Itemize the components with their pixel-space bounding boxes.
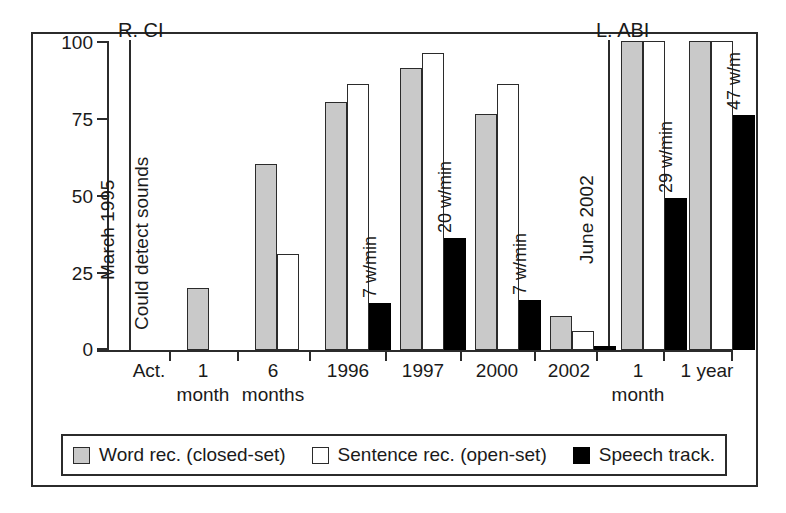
x-label-1996: 1996: [327, 359, 369, 383]
bar-group-6months: [255, 41, 299, 350]
x-label-act-line1: Act.: [133, 360, 166, 381]
figure-frame: 100 75 50 25 0 March 1995 Could dete: [31, 32, 758, 487]
x-label-1year-abi: 1 year: [681, 359, 734, 383]
bar-sentence-1996[interactable]: [347, 84, 369, 350]
legend-label-speech-track: Speech track.: [599, 444, 715, 466]
bar-note-2000: 7 w/min: [511, 233, 530, 295]
bar-word-6months[interactable]: [255, 164, 277, 350]
legend-label-sentence-rec: Sentence rec. (open-set): [338, 444, 547, 466]
x-label-6months-line2: months: [242, 383, 304, 407]
bar-word-1996[interactable]: [325, 102, 347, 350]
x-label-act: Act.: [133, 359, 166, 383]
y-tick-label-75: 75: [72, 110, 93, 129]
bar-word-1month-abi[interactable]: [621, 41, 643, 350]
x-label-6months: 6 months: [242, 359, 304, 407]
bar-group-1997: 20 w/min: [400, 41, 466, 350]
x-label-1month-ci-line1: 1: [198, 360, 209, 381]
legend-swatch-speech-track-icon: [573, 447, 590, 464]
section-header-right-ci: R. CI: [118, 20, 164, 40]
bar-sentence-2000[interactable]: [497, 84, 519, 350]
bar-word-1month-ci[interactable]: [187, 288, 209, 350]
bar-speech-2002[interactable]: [594, 346, 616, 350]
x-axis-labels: Act. 1 month 6 months 1996 1997 2000 200…: [107, 359, 733, 419]
y-tick-75: [97, 118, 107, 120]
bar-note-1997: 20 w/min: [436, 161, 455, 233]
legend-label-word-rec: Word rec. (closed-set): [99, 444, 286, 466]
x-axis-line: [97, 350, 733, 352]
bar-group-2002: [550, 41, 616, 350]
bar-word-2002[interactable]: [550, 316, 572, 350]
y-tick-label-100: 100: [61, 33, 93, 52]
y-tick-0: [97, 348, 107, 350]
y-tick-label-50: 50: [72, 187, 93, 206]
legend-item-word-rec[interactable]: Word rec. (closed-set): [73, 444, 286, 466]
x-label-1month-abi: 1 month: [612, 359, 665, 407]
bar-word-1year-abi[interactable]: [689, 41, 711, 350]
bar-sentence-2002[interactable]: [572, 331, 594, 350]
bar-group-1month-abi: 29 w/min: [621, 41, 687, 350]
bar-speech-1year-abi[interactable]: 47 w/m: [733, 115, 755, 350]
x-label-1month-ci: 1 month: [177, 359, 230, 407]
x-label-1997: 1997: [402, 359, 444, 383]
x-label-1month-abi-line1: 1: [633, 360, 644, 381]
x-label-2002: 2002: [548, 359, 590, 383]
bar-group-1year-abi: 47 w/m: [689, 41, 755, 350]
legend-swatch-word-rec-icon: [73, 447, 90, 464]
bar-speech-1month-abi[interactable]: 29 w/min: [665, 198, 687, 350]
y-tick-label-0: 0: [82, 340, 93, 359]
x-label-1year-abi-line1: 1 year: [681, 360, 734, 381]
bar-note-1996: 7 w/min: [361, 236, 380, 298]
x-label-2000: 2000: [476, 359, 518, 383]
bar-group-1996: 7 w/min: [325, 41, 391, 350]
x-label-2000-line1: 2000: [476, 360, 518, 381]
bar-sentence-6months[interactable]: [277, 254, 299, 350]
bar-group-2000: 7 w/min: [475, 41, 541, 350]
x-label-2002-line1: 2002: [548, 360, 590, 381]
annotation-march-1995: March 1995: [98, 180, 117, 280]
bar-note-1month-abi: 29 w/min: [657, 121, 676, 193]
x-label-6months-line1: 6: [268, 360, 279, 381]
y-tick-100: [97, 41, 107, 43]
bar-word-1997[interactable]: [400, 68, 422, 350]
bar-word-2000[interactable]: [475, 114, 497, 350]
x-label-1month-ci-line2: month: [177, 383, 230, 407]
x-label-1996-line1: 1996: [327, 360, 369, 381]
bar-note-1year-abi: 47 w/m: [725, 52, 744, 110]
plot-area: 100 75 50 25 0 March 1995 Could dete: [107, 41, 733, 352]
bar-group-act: [131, 41, 167, 350]
bar-sentence-1month-abi[interactable]: [643, 41, 665, 350]
y-tick-label-25: 25: [72, 264, 93, 283]
section-header-left-abi: L. ABI: [596, 20, 649, 40]
legend-item-speech-track[interactable]: Speech track.: [573, 444, 715, 466]
bar-speech-1996[interactable]: 7 w/min: [369, 303, 391, 350]
legend-swatch-sentence-rec-icon: [312, 447, 329, 464]
bar-group-1month-ci: [187, 41, 209, 350]
legend: Word rec. (closed-set) Sentence rec. (op…: [61, 434, 727, 476]
bar-speech-1997[interactable]: 20 w/min: [444, 238, 466, 350]
bar-speech-2000[interactable]: 7 w/min: [519, 300, 541, 350]
x-label-1month-abi-line2: month: [612, 383, 665, 407]
x-label-1997-line1: 1997: [402, 360, 444, 381]
legend-item-sentence-rec[interactable]: Sentence rec. (open-set): [312, 444, 547, 466]
